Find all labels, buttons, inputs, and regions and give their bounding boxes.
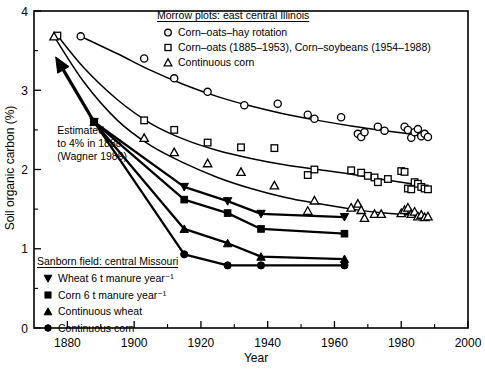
data-marker-square-solid xyxy=(181,196,188,203)
data-marker-circle-solid xyxy=(181,251,188,258)
annotation-line: (Wagner 1989) xyxy=(57,150,127,162)
data-marker-square-open xyxy=(304,172,311,179)
data-marker-circle-solid xyxy=(341,262,348,269)
data-marker-square-open xyxy=(358,169,365,176)
legend-item[interactable]: Corn–oats–hay rotation xyxy=(165,26,288,38)
x-tick-label: 1940 xyxy=(254,336,281,350)
data-marker-square-open xyxy=(408,186,415,193)
annotation-line: Estimated xyxy=(57,124,104,136)
data-marker-circle-open xyxy=(171,75,178,82)
data-marker-circle-open xyxy=(204,88,211,95)
chart-canvas: 188019001920194019601980200001234 Estima… xyxy=(0,0,485,369)
x-axis-title: Year xyxy=(244,351,268,365)
legend-item[interactable]: Continuous corn xyxy=(45,322,135,334)
data-marker-circle-open xyxy=(338,114,345,121)
legend-item-label: Corn–oats–hay rotation xyxy=(178,26,287,38)
y-axis-title: Soil organic carbon (%) xyxy=(3,106,17,231)
data-marker-circle-open xyxy=(165,29,172,36)
data-marker-square-open xyxy=(171,127,178,134)
data-marker-circle-open xyxy=(374,123,381,130)
legend-heading: Morrow plots: east central Illinois xyxy=(157,9,309,21)
legend-item-label: Wheat 6 t manure year⁻¹ xyxy=(58,272,174,284)
legend-item-label: Continuous wheat xyxy=(58,305,142,317)
data-marker-circle-open xyxy=(274,100,281,107)
data-marker-circle-open xyxy=(304,111,311,118)
legend-item-label: Continuous corn xyxy=(58,322,135,334)
data-marker-square-open xyxy=(348,167,355,174)
data-marker-circle-open xyxy=(381,127,388,134)
legend-item[interactable]: Continuous corn xyxy=(164,56,254,68)
x-tick-label: 1920 xyxy=(188,336,215,350)
data-marker-circle-solid xyxy=(224,262,231,269)
data-marker-square-open xyxy=(271,145,278,152)
data-marker-circle-open xyxy=(241,102,248,109)
y-tick-label: 0 xyxy=(21,322,28,336)
data-marker-circle-solid xyxy=(257,262,264,269)
y-tick-label: 3 xyxy=(21,84,28,98)
data-marker-square-open xyxy=(425,186,432,193)
data-marker-square-open xyxy=(141,117,148,124)
x-tick-label: 1980 xyxy=(388,336,415,350)
data-marker-square-solid xyxy=(341,230,348,237)
x-tick-label: 1880 xyxy=(54,336,81,350)
data-marker-square-solid xyxy=(258,226,265,233)
data-marker-square-open xyxy=(238,144,245,151)
data-marker-circle-open xyxy=(361,129,368,136)
annotation-line: to 4% in 1888 xyxy=(57,137,121,149)
data-marker-square-open xyxy=(365,173,372,180)
legend-item[interactable]: Continuous wheat xyxy=(44,305,142,317)
y-tick-label: 1 xyxy=(21,242,28,256)
data-marker-circle-open xyxy=(414,125,421,132)
x-tick-label: 2000 xyxy=(455,336,482,350)
data-marker-square-open xyxy=(401,169,408,176)
x-tick-label: 1960 xyxy=(321,336,348,350)
data-marker-square-open xyxy=(204,139,211,146)
soil-organic-carbon-figure: 188019001920194019601980200001234 Estima… xyxy=(0,0,485,369)
y-tick-label: 2 xyxy=(21,163,28,177)
legend-item[interactable]: Corn–oats (1885–1953), Corn–soybeans (19… xyxy=(165,41,431,53)
data-marker-circle-open xyxy=(424,133,431,140)
legend-item-label: Corn 6 t manure year⁻¹ xyxy=(58,289,167,301)
legend-item-label: Corn–oats (1885–1953), Corn–soybeans (19… xyxy=(178,41,431,53)
legend-heading: Sanborn field: central Missouri xyxy=(37,255,178,267)
data-marker-square-open xyxy=(385,176,392,183)
data-marker-square-open xyxy=(165,44,171,50)
legend-item-label: Continuous corn xyxy=(178,56,255,68)
data-marker-circle-solid xyxy=(45,325,52,332)
data-marker-square-open xyxy=(375,179,382,186)
data-marker-circle-open xyxy=(311,115,318,122)
data-marker-circle-open xyxy=(141,55,148,62)
data-marker-square-open xyxy=(311,166,318,173)
data-marker-square-solid xyxy=(224,210,231,217)
data-marker-circle-open xyxy=(77,33,84,40)
y-tick-label: 4 xyxy=(21,5,28,19)
legend-item[interactable]: Wheat 6 t manure year⁻¹ xyxy=(44,272,174,284)
x-tick-label: 1900 xyxy=(121,336,148,350)
legend-item[interactable]: Corn 6 t manure year⁻¹ xyxy=(45,289,167,301)
data-marker-square-solid xyxy=(45,292,51,298)
